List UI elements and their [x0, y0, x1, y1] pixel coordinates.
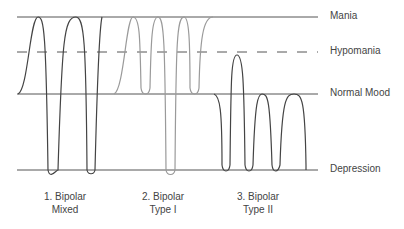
bipolar-type1-wave [114, 17, 213, 175]
caption-line2: Type I [133, 203, 193, 216]
bipolar-mixed-wave [18, 17, 102, 174]
caption-line2: Mixed [35, 203, 95, 216]
bipolar-type2-wave [214, 55, 306, 171]
caption-bipolar-type1: 2. Bipolar Type I [133, 190, 193, 216]
caption-line1: 2. Bipolar [133, 190, 193, 203]
label-normal-mood: Normal Mood [330, 87, 390, 98]
caption-bipolar-type2: 3. Bipolar Type II [228, 190, 288, 216]
caption-line1: 3. Bipolar [228, 190, 288, 203]
caption-line2: Type II [228, 203, 288, 216]
label-mania: Mania [330, 10, 357, 21]
caption-bipolar-mixed: 1. Bipolar Mixed [35, 190, 95, 216]
label-depression: Depression [330, 163, 381, 174]
caption-line1: 1. Bipolar [35, 190, 95, 203]
label-hypomania: Hypomania [330, 45, 381, 56]
